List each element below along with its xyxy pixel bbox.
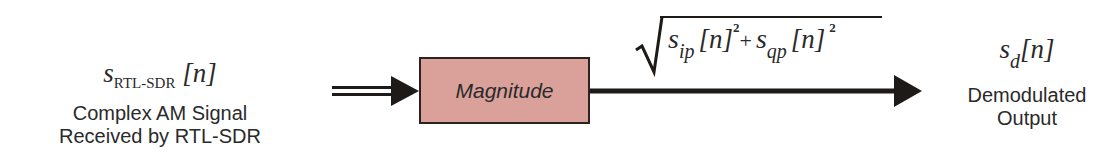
- input-arrowhead-icon: [391, 76, 419, 106]
- formula-term2-symbol: s: [756, 23, 767, 54]
- output-signal-symbol: sd[n]: [952, 34, 1102, 76]
- output-subscript: d: [1010, 50, 1020, 72]
- formula-plus: +: [739, 28, 751, 53]
- formula-term2-index: [n]: [791, 24, 826, 54]
- output-index: [n]: [1020, 34, 1055, 64]
- input-caption-line2: Received by RTL-SDR: [20, 125, 300, 148]
- magnitude-formula: sip [n]2+ sqp [n] 2: [668, 20, 888, 70]
- formula-term1-index: [n]: [698, 24, 733, 54]
- formula-term2-subscript: qp: [767, 40, 787, 62]
- magnitude-block: Magnitude: [419, 57, 590, 124]
- input-symbol: s: [103, 58, 114, 88]
- radical-sign-icon: [636, 17, 662, 72]
- formula-term1-symbol: s: [668, 23, 679, 54]
- input-signal-symbol: sRTL-SDR [n]: [20, 58, 300, 98]
- input-caption-line1: Complex AM Signal: [20, 102, 300, 125]
- input-index: [n]: [182, 58, 217, 88]
- input-label: sRTL-SDR [n] Complex AM Signal Received …: [20, 58, 300, 148]
- output-caption-line2: Output: [952, 107, 1102, 130]
- output-symbol: s: [999, 34, 1010, 64]
- output-arrowhead-icon: [894, 75, 922, 107]
- input-subscript: RTL-SDR: [114, 75, 176, 91]
- formula-term1-subscript: ip: [679, 40, 695, 62]
- output-caption-line1: Demodulated: [952, 84, 1102, 107]
- magnitude-block-label: Magnitude: [455, 79, 553, 103]
- formula-term2-power: 2: [829, 20, 836, 35]
- output-label: sd[n] Demodulated Output: [952, 34, 1102, 130]
